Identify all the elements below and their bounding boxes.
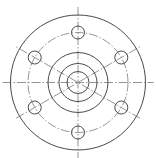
flange-drawing-svg — [0, 0, 156, 158]
flange-diagram — [0, 0, 156, 158]
centerlines — [3, 7, 154, 158]
